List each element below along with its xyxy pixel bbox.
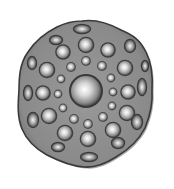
mid-sphere: [58, 126, 72, 140]
inner-dot: [110, 89, 117, 96]
rendered-disc-image: [0, 0, 174, 189]
mid-sphere: [79, 38, 93, 52]
rim-pocket: [28, 57, 36, 69]
mid-sphere: [106, 123, 120, 137]
rim-pocket: [52, 143, 64, 151]
rim-pocket: [125, 40, 135, 52]
inner-dot: [109, 103, 116, 110]
rim-pocket: [142, 61, 148, 71]
inner-dot: [108, 75, 115, 82]
inner-dot: [82, 57, 90, 65]
rim-pocket: [138, 79, 146, 95]
inner-dot: [99, 113, 107, 121]
mid-sphere: [118, 61, 132, 75]
center-sphere-body: [71, 76, 101, 106]
rim-pocket: [50, 36, 62, 44]
inner-dot: [98, 62, 106, 70]
rim-pocket: [112, 138, 124, 148]
inner-dot: [67, 63, 75, 71]
center-sphere: [69, 74, 103, 108]
rim-pocket: [74, 25, 90, 33]
mid-sphere: [57, 46, 70, 59]
mid-sphere: [40, 63, 54, 77]
mid-sphere: [120, 106, 134, 120]
mid-sphere: [102, 44, 115, 57]
rim-pocket: [81, 153, 97, 161]
mid-sphere: [37, 87, 50, 100]
mid-sphere: [42, 109, 56, 123]
mid-sphere: [81, 132, 95, 146]
inner-dot: [84, 120, 92, 128]
rim-pocket: [28, 113, 38, 127]
inner-dot: [58, 76, 65, 83]
rim-pocket: [24, 86, 32, 100]
mid-sphere: [122, 86, 135, 99]
inner-dot: [55, 91, 62, 98]
inner-dot: [70, 115, 78, 123]
inner-dot: [60, 105, 67, 112]
